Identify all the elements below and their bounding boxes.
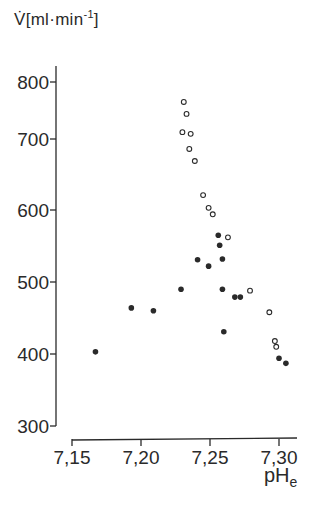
x-tick-label: 7,20: [123, 447, 160, 468]
x-tick-label: 7,15: [54, 447, 91, 468]
open-circle-point: [206, 205, 211, 210]
open-circle-point: [248, 288, 253, 293]
filled-circle-point: [151, 308, 157, 314]
filled-circle-point: [283, 361, 289, 367]
y-tick-label: 300: [17, 416, 49, 437]
filled-circle-point: [238, 294, 244, 300]
x-tick-label: 7,25: [192, 447, 229, 468]
filled-circle-point: [221, 329, 227, 335]
open-circle-point: [187, 147, 192, 152]
y-tick-label: 700: [17, 129, 49, 150]
x-axis-title-base: pH: [264, 464, 290, 486]
open-circle-point: [210, 212, 215, 217]
y-axis: 800700600500400300: [17, 66, 56, 437]
y-tick-label: 400: [17, 344, 49, 365]
filled-circle-point: [232, 294, 238, 300]
filled-circle-point: [217, 242, 223, 248]
scatter-plot: 800700600500400300 7,157,207,257,30: [0, 0, 315, 512]
filled-circle-point: [215, 232, 221, 238]
open-circle-point: [267, 310, 272, 315]
filled-circle-point: [129, 305, 135, 311]
filled-circle-point: [178, 286, 184, 292]
open-circle-point: [192, 159, 197, 164]
open-circle-point: [274, 344, 279, 349]
y-tick-label: 500: [17, 272, 49, 293]
open-circle-point: [201, 193, 206, 198]
open-circle-point: [188, 131, 193, 136]
open-circle-point: [226, 235, 231, 240]
y-tick-label: 800: [17, 72, 49, 93]
filled-circle-point: [93, 349, 99, 355]
open-circle-point: [181, 100, 186, 105]
filled-circle-point: [276, 356, 282, 362]
x-axis: 7,157,207,257,30: [54, 438, 298, 468]
open-circle-point: [272, 339, 277, 344]
open-circle-point: [180, 130, 185, 135]
filled-circle-point: [220, 286, 226, 292]
x-axis-title-sub: e: [290, 474, 298, 490]
filled-circle-point: [195, 257, 201, 263]
filled-circle-point: [220, 256, 226, 262]
y-tick-label: 600: [17, 200, 49, 221]
data-points: [93, 100, 289, 367]
open-circle-point: [184, 112, 189, 117]
x-axis-title: pHe: [264, 464, 297, 490]
filled-circle-point: [206, 263, 212, 269]
